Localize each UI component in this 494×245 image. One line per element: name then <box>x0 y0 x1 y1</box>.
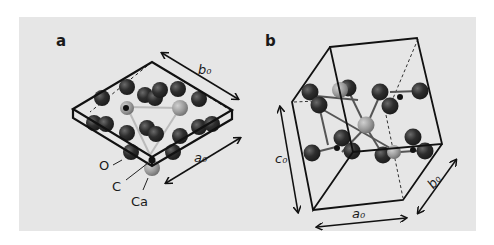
axis-label-a0-b: a₀ <box>352 206 366 221</box>
axis-label-b0-a: b₀ <box>198 62 212 77</box>
panel-label-b: b <box>265 32 276 50</box>
atom-label-c: C <box>112 179 121 194</box>
panel-b: b <box>265 32 456 227</box>
axis-label-b0-b: b₀ <box>424 171 445 192</box>
crystal-structure-figure: a <box>0 0 494 245</box>
panel-a: a <box>56 32 240 209</box>
panel-label-a: a <box>56 32 66 50</box>
axis-label-c0-b: c₀ <box>275 151 288 166</box>
atom-label-o: O <box>99 158 109 173</box>
atom-label-ca: Ca <box>131 194 148 209</box>
axis-label-a0-a: a₀ <box>194 150 208 165</box>
